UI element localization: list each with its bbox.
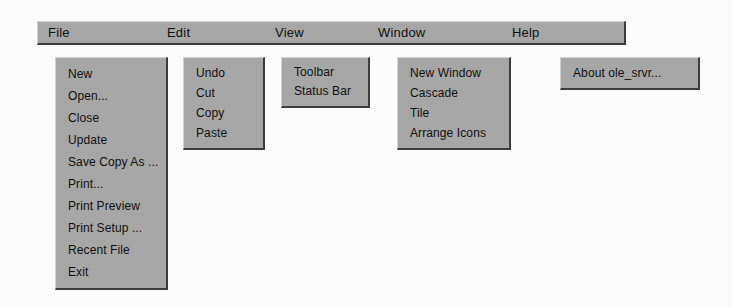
menu-item-new[interactable]: New [56, 63, 166, 85]
menu-item-exit[interactable]: Exit [56, 261, 166, 283]
menu-item-status-bar[interactable]: Status Bar [282, 82, 368, 101]
menu-item-open[interactable]: Open... [56, 85, 166, 107]
menubar-item-file[interactable]: File [48, 25, 70, 41]
dropdown-menu-view: Toolbar Status Bar [281, 57, 370, 108]
dropdown-menu-window: New Window Cascade Tile Arrange Icons [397, 57, 511, 150]
menu-item-cascade[interactable]: Cascade [398, 83, 509, 103]
dropdown-menu-file: New Open... Close Update Save Copy As ..… [55, 57, 168, 290]
menubar-item-window[interactable]: Window [378, 25, 425, 41]
menu-item-undo[interactable]: Undo [184, 63, 263, 83]
menu-item-copy[interactable]: Copy [184, 103, 263, 123]
menubar-item-help[interactable]: Help [512, 25, 540, 41]
menu-bar: File Edit View Window Help [37, 21, 626, 45]
menu-item-paste[interactable]: Paste [184, 123, 263, 143]
menu-item-cut[interactable]: Cut [184, 83, 263, 103]
dropdown-menu-help: About ole_srvr... [560, 57, 700, 90]
menu-item-print[interactable]: Print... [56, 173, 166, 195]
menu-item-tile[interactable]: Tile [398, 103, 509, 123]
menu-item-recent-file[interactable]: Recent File [56, 239, 166, 261]
menu-item-close[interactable]: Close [56, 107, 166, 129]
menu-item-new-window[interactable]: New Window [398, 63, 509, 83]
dropdown-menu-edit: Undo Cut Copy Paste [183, 57, 265, 150]
menu-item-toolbar[interactable]: Toolbar [282, 63, 368, 82]
menu-item-about[interactable]: About ole_srvr... [561, 63, 698, 83]
menu-item-save-copy-as[interactable]: Save Copy As ... [56, 151, 166, 173]
menubar-item-view[interactable]: View [275, 25, 304, 41]
menubar-item-edit[interactable]: Edit [167, 25, 190, 41]
menu-item-update[interactable]: Update [56, 129, 166, 151]
menu-item-print-setup[interactable]: Print Setup ... [56, 217, 166, 239]
menu-item-print-preview[interactable]: Print Preview [56, 195, 166, 217]
menu-item-arrange-icons[interactable]: Arrange Icons [398, 123, 509, 143]
